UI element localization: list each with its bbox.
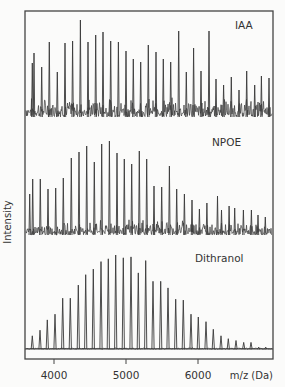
spectrum-peak bbox=[94, 162, 95, 235]
spectrum-peak bbox=[235, 341, 237, 350]
spectrum-peak bbox=[160, 281, 162, 349]
spectrum-peak bbox=[261, 76, 262, 117]
spectrum-peak bbox=[101, 144, 102, 235]
spectrum-peak bbox=[63, 178, 64, 235]
spectrum-peak bbox=[169, 166, 170, 235]
spectrum-peak bbox=[102, 32, 103, 117]
x-axis-label: m/z (Da) bbox=[230, 370, 273, 381]
spectrum-peak bbox=[182, 300, 184, 349]
spectrum-peak bbox=[57, 72, 58, 117]
panel-label-iaa: IAA bbox=[235, 19, 254, 31]
spectrum-peak bbox=[197, 317, 199, 349]
panel-label-npoe: NPOE bbox=[212, 136, 241, 148]
spectrum-peak bbox=[77, 285, 79, 349]
spectrum-peak bbox=[40, 179, 41, 235]
spectrum-peak bbox=[69, 298, 71, 349]
spectrum-peak bbox=[139, 151, 140, 235]
x-tick-label-4000: 4000 bbox=[41, 369, 68, 381]
spectrum-peak bbox=[205, 322, 207, 349]
trace-iaa bbox=[26, 20, 272, 117]
spectrum-peak bbox=[118, 42, 119, 117]
spectrum-peak bbox=[193, 48, 194, 117]
spectrum-peak bbox=[110, 41, 111, 117]
spectrum-peak bbox=[167, 288, 169, 349]
spectrum-peak bbox=[231, 77, 232, 117]
spectrum-peak bbox=[46, 320, 48, 349]
spectrum-peak bbox=[107, 259, 109, 349]
trace-dithranol bbox=[25, 255, 273, 349]
spectrum-peak bbox=[87, 42, 88, 117]
spectrum-peak bbox=[32, 179, 33, 235]
mass-spectra-figure: IAA NPOE Dithranol 4000 5000 6000 m/z (D… bbox=[0, 0, 285, 387]
spectrum-peak bbox=[137, 273, 139, 349]
spectrum-peak bbox=[208, 31, 209, 117]
spectrum-peak bbox=[55, 188, 56, 235]
spectrum-peak bbox=[115, 255, 117, 349]
spectrum-peak bbox=[49, 42, 50, 117]
spectrum-peak bbox=[217, 196, 218, 235]
spectrum-peak bbox=[238, 90, 239, 117]
spectrum-peak bbox=[95, 35, 96, 117]
x-tick-label-5000: 5000 bbox=[113, 369, 140, 381]
spectrum-peak bbox=[86, 146, 87, 235]
panel-label-dithranol: Dithranol bbox=[195, 252, 244, 264]
spectrum-peak bbox=[64, 43, 65, 117]
spectrum-peak bbox=[184, 194, 185, 235]
spectrum-peak bbox=[155, 52, 156, 117]
spectrum-peak bbox=[153, 186, 154, 235]
spectrum-peak bbox=[234, 208, 235, 235]
spectrum-peak bbox=[175, 299, 177, 349]
spectrum-peak bbox=[212, 329, 214, 349]
x-tick-label-6000: 6000 bbox=[185, 369, 212, 381]
spectrum-peak bbox=[78, 152, 79, 235]
spectrum-peak bbox=[243, 210, 244, 235]
x-axis bbox=[54, 359, 198, 364]
spectrum-peak bbox=[125, 51, 126, 117]
spectrum-peak bbox=[31, 336, 33, 349]
spectrum-peak bbox=[221, 210, 222, 235]
spectrum-peak bbox=[146, 159, 147, 235]
spectrum-peak bbox=[145, 261, 147, 349]
spectrum-peak bbox=[124, 159, 125, 235]
spectrum-peak bbox=[122, 258, 124, 349]
spectrum-peak bbox=[131, 164, 132, 235]
spectrum-peak bbox=[100, 262, 102, 349]
spectrum-peak bbox=[152, 281, 154, 349]
spectrum-peak bbox=[116, 153, 117, 235]
spectrum-peak bbox=[85, 275, 87, 349]
spectrum-peak bbox=[54, 314, 56, 349]
spectrum-peak bbox=[80, 20, 81, 117]
spectrum-peak bbox=[71, 158, 72, 235]
spectrum-peak bbox=[62, 298, 64, 349]
spectrum-peak bbox=[33, 53, 34, 117]
spectrum-peak bbox=[109, 141, 110, 235]
spectrum-peak bbox=[227, 339, 229, 349]
spectrum-peak bbox=[163, 59, 164, 117]
spectrum-peak bbox=[92, 269, 94, 349]
spectrum-peak bbox=[190, 314, 192, 349]
spectrum-peak bbox=[39, 330, 41, 349]
spectrum-peak bbox=[130, 257, 132, 349]
spectrum-peak bbox=[29, 194, 30, 235]
spectrum-peak bbox=[220, 336, 222, 349]
spectrum-peak bbox=[178, 31, 179, 117]
trace-npoe bbox=[26, 141, 272, 235]
y-axis-label: Intensity bbox=[2, 200, 13, 244]
